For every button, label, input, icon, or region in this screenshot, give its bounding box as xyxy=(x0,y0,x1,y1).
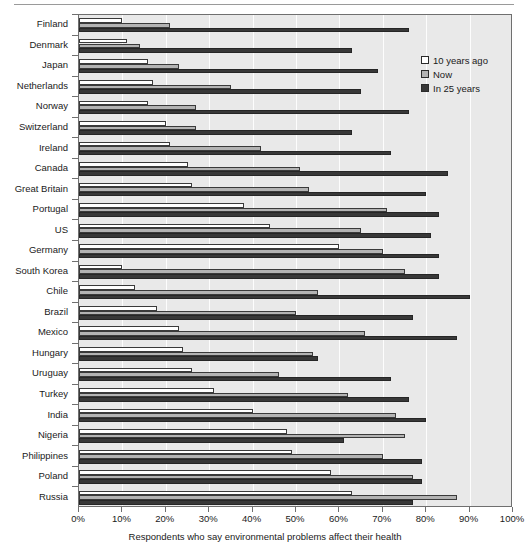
bar-group xyxy=(79,15,511,36)
bar xyxy=(79,438,344,443)
bar xyxy=(79,254,439,259)
bar-group xyxy=(79,200,511,221)
x-axis-tick-label-90: 90% xyxy=(459,513,478,525)
legend-swatch-icon xyxy=(421,84,429,92)
x-axis-tick-label-80: 80% xyxy=(416,513,435,525)
bar xyxy=(79,336,457,341)
bar xyxy=(79,356,318,361)
bar-group xyxy=(79,467,511,488)
y-axis-label-brazil: Brazil xyxy=(44,306,68,317)
y-axis-label-turkey: Turkey xyxy=(39,388,68,399)
bar xyxy=(79,397,409,402)
y-axis-label-ireland: Ireland xyxy=(39,142,68,153)
y-axis-label-switzerland: Switzerland xyxy=(19,121,68,132)
bar-group xyxy=(79,241,511,262)
x-axis-tick-10 xyxy=(121,507,122,512)
legend-label: Now xyxy=(433,69,452,80)
y-axis-label-norway: Norway xyxy=(36,100,68,111)
x-axis-tick-label-30: 30% xyxy=(199,513,218,525)
y-axis-label-india: India xyxy=(47,409,68,420)
x-axis-tick-30 xyxy=(208,507,209,512)
legend-item: Now xyxy=(421,67,509,81)
bar-group xyxy=(79,385,511,406)
y-axis-label-germany: Germany xyxy=(29,244,68,255)
bar xyxy=(79,500,413,505)
y-axis-category-labels: FinlandDenmarkJapanNetherlandsNorwaySwit… xyxy=(0,14,74,507)
bar-group xyxy=(79,282,511,303)
bar-group xyxy=(79,262,511,283)
x-axis-title: Respondents who say environmental proble… xyxy=(0,531,530,542)
bar-group xyxy=(79,487,511,508)
bar xyxy=(79,295,470,300)
x-axis-tick-20 xyxy=(165,507,166,512)
bar-chart-figure: FinlandDenmarkJapanNetherlandsNorwaySwit… xyxy=(0,0,530,557)
x-axis-tick-label-100: 100% xyxy=(500,513,524,525)
y-axis-label-chile: Chile xyxy=(46,285,68,296)
bar-group xyxy=(79,138,511,159)
bar xyxy=(79,459,422,464)
bar xyxy=(79,377,391,382)
bar xyxy=(79,151,391,156)
chart-legend: 10 years agoNowIn 25 years xyxy=(421,53,509,95)
y-axis-label-netherlands: Netherlands xyxy=(17,80,68,91)
x-axis-tick-label-70: 70% xyxy=(372,513,391,525)
x-axis-tick-80 xyxy=(425,507,426,512)
bar-group xyxy=(79,97,511,118)
y-axis-label-south-korea: South Korea xyxy=(15,265,68,276)
bar xyxy=(79,69,378,74)
x-axis-tick-label-10: 10% xyxy=(112,513,131,525)
bar-group xyxy=(79,220,511,241)
bar xyxy=(79,212,439,217)
bar xyxy=(79,192,426,197)
bar-group xyxy=(79,159,511,180)
x-axis-tick-label-0: 0% xyxy=(71,513,85,525)
bar-group xyxy=(79,323,511,344)
bar-group xyxy=(79,426,511,447)
bar xyxy=(79,418,426,423)
legend-label: In 25 years xyxy=(433,83,480,94)
x-axis-tick-90 xyxy=(469,507,470,512)
x-axis-tick-label-20: 20% xyxy=(155,513,174,525)
y-axis-label-great-britain: Great Britain xyxy=(15,183,68,194)
legend-item: 10 years ago xyxy=(421,53,509,67)
bar xyxy=(79,130,352,135)
x-axis-tick-0 xyxy=(78,507,79,512)
y-axis-label-nigeria: Nigeria xyxy=(38,429,68,440)
bar xyxy=(79,233,431,238)
bar xyxy=(79,171,448,176)
y-axis-label-poland: Poland xyxy=(38,470,68,481)
bar-group xyxy=(79,179,511,200)
y-axis-label-canada: Canada xyxy=(35,162,68,173)
bar-group xyxy=(79,303,511,324)
y-axis-label-portugal: Portugal xyxy=(33,203,68,214)
bar xyxy=(79,89,361,94)
x-axis-tick-40 xyxy=(252,507,253,512)
y-axis-label-us: US xyxy=(55,224,68,235)
y-axis-label-uruguay: Uruguay xyxy=(32,367,68,378)
bar xyxy=(79,110,409,115)
bar xyxy=(79,479,422,484)
y-axis-label-japan: Japan xyxy=(42,59,68,70)
top-divider-rule xyxy=(14,4,514,5)
bar xyxy=(79,28,409,33)
gridline-100 xyxy=(513,15,514,506)
legend-swatch-icon xyxy=(421,56,429,64)
x-axis-tick-labels: 0%10%20%30%40%50%60%70%80%90%100% xyxy=(78,513,512,527)
bar xyxy=(79,48,352,53)
bar-group xyxy=(79,364,511,385)
legend-swatch-icon xyxy=(421,70,429,78)
y-axis-label-finland: Finland xyxy=(37,18,68,29)
legend-label: 10 years ago xyxy=(433,55,488,66)
x-axis-tick-100 xyxy=(512,507,513,512)
x-axis-tick-label-60: 60% xyxy=(329,513,348,525)
bar-group xyxy=(79,405,511,426)
x-axis-tick-50 xyxy=(295,507,296,512)
bar xyxy=(79,315,413,320)
bar xyxy=(79,274,439,279)
y-axis-label-denmark: Denmark xyxy=(29,39,68,50)
bar-group xyxy=(79,118,511,139)
y-axis-label-mexico: Mexico xyxy=(38,326,68,337)
legend-item: In 25 years xyxy=(421,81,509,95)
y-axis-label-hungary: Hungary xyxy=(32,347,68,358)
x-axis-tick-label-40: 40% xyxy=(242,513,261,525)
